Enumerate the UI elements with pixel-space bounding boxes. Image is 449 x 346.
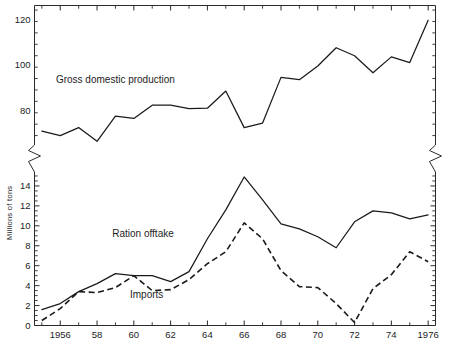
y-tick-label-lower: 2	[25, 300, 30, 311]
y-tick-label-lower: 12	[20, 200, 31, 211]
y-tick-label-lower: 0	[25, 320, 30, 331]
y-tick-label-upper: 100	[15, 59, 31, 70]
x-tick-label: 68	[276, 329, 287, 340]
x-tick-label: 74	[386, 329, 397, 340]
series-line-imports	[42, 223, 428, 323]
y-tick-label-upper: 120	[15, 14, 31, 25]
x-tick-label: 1956	[50, 329, 71, 340]
y-tick-label-lower: 6	[25, 260, 30, 271]
x-tick-label: 64	[202, 329, 213, 340]
x-tick-label: 1976	[418, 329, 439, 340]
line-chart: 1956586062646668707274197680100120024681…	[0, 0, 449, 346]
x-tick-label: 66	[239, 329, 250, 340]
x-tick-label: 72	[349, 329, 360, 340]
y-tick-label-upper: 80	[20, 105, 31, 116]
series-label-gross-domestic-production: Gross domestic production	[56, 74, 175, 85]
series-label-imports: Imports	[130, 289, 163, 300]
x-tick-label: 60	[129, 329, 140, 340]
axis-break-marks	[28, 145, 443, 172]
chart-container: 1956586062646668707274197680100120024681…	[0, 0, 449, 346]
plot-frame	[35, 6, 436, 326]
y-tick-label-lower: 10	[20, 220, 31, 231]
y-tick-label-lower: 8	[25, 240, 30, 251]
axis-ticks	[35, 6, 436, 326]
y-tick-label-lower: 14	[20, 180, 31, 191]
x-tick-label: 70	[312, 329, 323, 340]
x-tick-label: 62	[165, 329, 176, 340]
series-label-ration-offtake: Ration offtake	[112, 228, 174, 239]
x-tick-label: 58	[92, 329, 103, 340]
series-line-ration-offtake	[42, 177, 428, 310]
axis-tick-labels: 1956586062646668707274197680100120024681…	[15, 14, 439, 340]
data-series	[42, 20, 428, 322]
y-axis-title: Millions of tons	[5, 186, 14, 240]
y-tick-label-lower: 4	[25, 280, 30, 291]
